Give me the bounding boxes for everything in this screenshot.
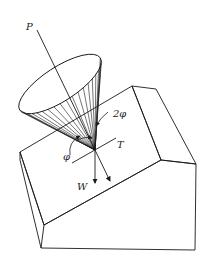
block-right-face [132,86,196,164]
friction-cone [10,44,109,150]
label-p: P [25,21,33,32]
normal-force-arrow [95,150,110,181]
force-p-line [37,30,95,150]
inclined-block [20,86,196,250]
cone-base-ellipse [10,44,109,125]
label-2phi: 2φ [112,108,126,119]
label-phi: φ [63,151,70,162]
block-front-face [41,160,196,250]
cone-generator-line [32,114,95,150]
block-left-face [20,152,44,248]
label-t: T [117,139,125,150]
friction-cone-diagram: P 2φ φ T W [0,0,210,265]
label-w: W [77,181,88,192]
